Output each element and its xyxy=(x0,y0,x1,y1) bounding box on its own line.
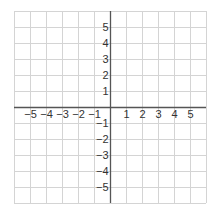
coordinate-plane: −5−4−3−2−112345 54321−1−2−3−4−5 xyxy=(0,0,212,211)
x-tick-label: 2 xyxy=(139,108,145,120)
x-tick-label: −4 xyxy=(40,108,53,120)
y-tick-label: −1 xyxy=(96,117,109,129)
x-tick-label: 1 xyxy=(123,108,129,120)
y-tick-label: 5 xyxy=(102,21,108,33)
y-tick-label: −3 xyxy=(96,149,109,161)
y-tick-label: 2 xyxy=(102,69,108,81)
y-tick-label: 4 xyxy=(102,37,108,49)
axes xyxy=(14,11,206,203)
y-tick-label: −2 xyxy=(96,133,109,145)
x-tick-label: −3 xyxy=(56,108,69,120)
x-tick-label: −5 xyxy=(24,108,37,120)
y-tick-label: −5 xyxy=(96,181,109,193)
x-tick-label: 5 xyxy=(187,108,193,120)
x-tick-label: 3 xyxy=(155,108,161,120)
y-tick-label: −4 xyxy=(96,165,109,177)
x-axis-tick-labels: −5−4−3−2−112345 xyxy=(24,108,193,120)
x-tick-label: −2 xyxy=(72,108,85,120)
y-tick-label: 1 xyxy=(102,85,108,97)
y-tick-label: 3 xyxy=(102,53,108,65)
x-tick-label: 4 xyxy=(171,108,177,120)
